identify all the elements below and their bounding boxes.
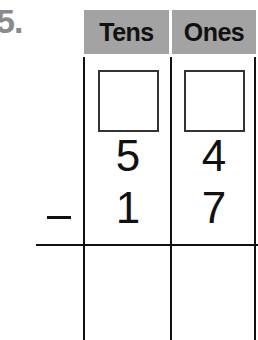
column-header-ones: Ones xyxy=(172,10,256,54)
regroup-box-ones[interactable] xyxy=(184,70,245,132)
column-header-tens: Tens xyxy=(84,10,169,54)
answer-tens-cell[interactable] xyxy=(85,260,171,320)
minus-sign-icon xyxy=(47,216,71,219)
regroup-box-tens[interactable] xyxy=(98,70,159,132)
subtrahend-tens-digit: 1 xyxy=(85,186,171,230)
minuend-tens-digit: 5 xyxy=(85,134,171,178)
subtrahend-ones-digit: 7 xyxy=(171,186,257,230)
minuend-ones-digit: 4 xyxy=(171,134,257,178)
problem-number: 5. xyxy=(0,2,22,41)
answer-divider-line xyxy=(36,244,258,246)
answer-ones-cell[interactable] xyxy=(171,260,257,320)
